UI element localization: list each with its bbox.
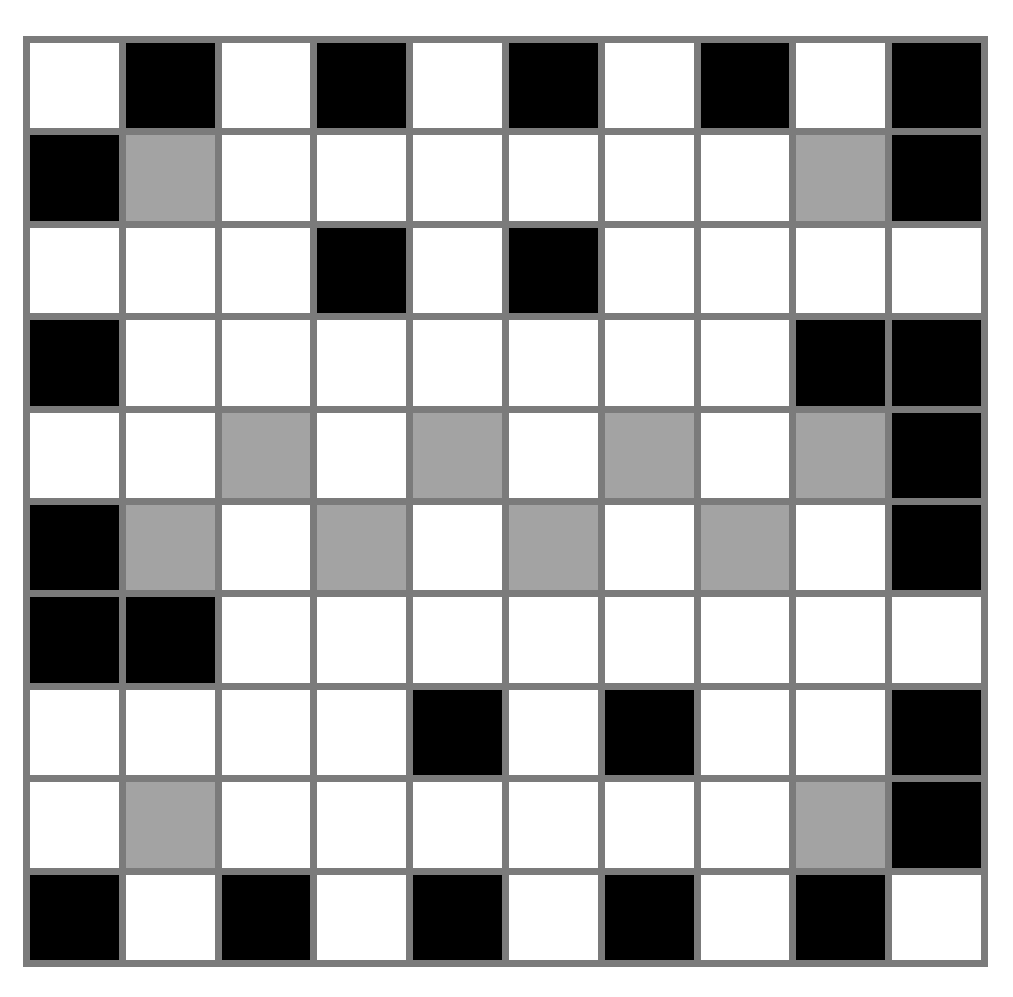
grid-cell-white[interactable]: [30, 228, 119, 313]
grid-cell-white[interactable]: [605, 228, 694, 313]
grid-cell-white[interactable]: [126, 875, 215, 960]
grid-cell-black[interactable]: [796, 875, 885, 960]
grid-cell-white[interactable]: [30, 43, 119, 128]
grid-cell-white[interactable]: [605, 782, 694, 867]
grid-cell-white[interactable]: [892, 875, 981, 960]
grid-cell-white[interactable]: [605, 320, 694, 405]
grid-cell-white[interactable]: [796, 43, 885, 128]
grid-cell-gray[interactable]: [796, 782, 885, 867]
grid-cell-black[interactable]: [317, 228, 406, 313]
grid-cell-white[interactable]: [317, 597, 406, 682]
grid-cell-black[interactable]: [30, 875, 119, 960]
grid-cell-white[interactable]: [222, 43, 311, 128]
grid-cell-white[interactable]: [796, 597, 885, 682]
grid-cell-black[interactable]: [509, 228, 598, 313]
grid-cell-black[interactable]: [413, 690, 502, 775]
grid-cell-gray[interactable]: [509, 505, 598, 590]
grid-cell-white[interactable]: [413, 505, 502, 590]
grid-cell-black[interactable]: [892, 690, 981, 775]
grid-cell-white[interactable]: [222, 135, 311, 220]
grid-cell-white[interactable]: [509, 875, 598, 960]
grid-cell-white[interactable]: [222, 690, 311, 775]
grid-cell-white[interactable]: [796, 228, 885, 313]
grid-cell-black[interactable]: [509, 43, 598, 128]
grid-cell-white[interactable]: [605, 43, 694, 128]
grid-cell-black[interactable]: [413, 875, 502, 960]
grid-cell-black[interactable]: [892, 320, 981, 405]
grid-cell-black[interactable]: [605, 690, 694, 775]
grid-cell-black[interactable]: [30, 320, 119, 405]
grid-cell-black[interactable]: [126, 43, 215, 128]
grid-cell-white[interactable]: [796, 690, 885, 775]
grid-cell-white[interactable]: [222, 320, 311, 405]
grid-cell-white[interactable]: [30, 413, 119, 498]
grid-cell-black[interactable]: [701, 43, 790, 128]
grid-cell-white[interactable]: [413, 782, 502, 867]
grid-cell-white[interactable]: [317, 413, 406, 498]
grid-cell-black[interactable]: [222, 875, 311, 960]
grid-cell-gray[interactable]: [317, 505, 406, 590]
grid-cell-white[interactable]: [413, 597, 502, 682]
grid-cell-white[interactable]: [222, 782, 311, 867]
grid-cell-white[interactable]: [413, 135, 502, 220]
grid-cell-white[interactable]: [605, 135, 694, 220]
grid-cell-black[interactable]: [30, 135, 119, 220]
grid-cell-white[interactable]: [701, 782, 790, 867]
grid-cell-gray[interactable]: [126, 782, 215, 867]
grid-cell-black[interactable]: [892, 413, 981, 498]
grid-cell-white[interactable]: [317, 875, 406, 960]
grid-cell-white[interactable]: [701, 690, 790, 775]
grid-cell-black[interactable]: [605, 875, 694, 960]
grid-cell-white[interactable]: [222, 505, 311, 590]
grid-cell-white[interactable]: [892, 597, 981, 682]
grid-cell-black[interactable]: [30, 505, 119, 590]
grid-cell-white[interactable]: [605, 597, 694, 682]
grid-cell-black[interactable]: [892, 43, 981, 128]
grid-cell-white[interactable]: [317, 135, 406, 220]
grid-cell-black[interactable]: [317, 43, 406, 128]
grid-cell-white[interactable]: [509, 135, 598, 220]
grid-cell-white[interactable]: [317, 782, 406, 867]
grid-cell-white[interactable]: [413, 320, 502, 405]
grid-cell-white[interactable]: [701, 875, 790, 960]
grid-cell-white[interactable]: [509, 782, 598, 867]
grid-cell-white[interactable]: [413, 43, 502, 128]
grid-cell-white[interactable]: [126, 690, 215, 775]
grid-cell-white[interactable]: [126, 228, 215, 313]
grid-cell-white[interactable]: [892, 228, 981, 313]
grid-cell-white[interactable]: [701, 320, 790, 405]
grid-cell-white[interactable]: [796, 505, 885, 590]
grid-cell-gray[interactable]: [605, 413, 694, 498]
grid-cell-gray[interactable]: [222, 413, 311, 498]
grid-cell-white[interactable]: [701, 135, 790, 220]
grid-cell-white[interactable]: [509, 413, 598, 498]
grid-cell-gray[interactable]: [796, 135, 885, 220]
grid-cell-white[interactable]: [605, 505, 694, 590]
grid-cell-gray[interactable]: [413, 413, 502, 498]
grid-cell-white[interactable]: [30, 782, 119, 867]
grid-cell-white[interactable]: [126, 413, 215, 498]
grid-cell-white[interactable]: [413, 228, 502, 313]
grid-cell-black[interactable]: [126, 597, 215, 682]
grid-cell-gray[interactable]: [701, 505, 790, 590]
grid-cell-white[interactable]: [317, 320, 406, 405]
grid-cell-white[interactable]: [509, 690, 598, 775]
grid-cell-white[interactable]: [509, 320, 598, 405]
grid-cell-white[interactable]: [701, 413, 790, 498]
grid-cell-white[interactable]: [222, 228, 311, 313]
grid-cell-white[interactable]: [222, 597, 311, 682]
grid-cell-black[interactable]: [30, 597, 119, 682]
grid-cell-black[interactable]: [796, 320, 885, 405]
grid-cell-gray[interactable]: [796, 413, 885, 498]
grid-cell-white[interactable]: [509, 597, 598, 682]
grid-cell-black[interactable]: [892, 505, 981, 590]
grid-cell-white[interactable]: [701, 597, 790, 682]
grid-cell-white[interactable]: [317, 690, 406, 775]
grid-cell-white[interactable]: [30, 690, 119, 775]
grid-cell-black[interactable]: [892, 782, 981, 867]
grid-cell-white[interactable]: [126, 320, 215, 405]
grid-cell-gray[interactable]: [126, 505, 215, 590]
grid-cell-white[interactable]: [701, 228, 790, 313]
grid-cell-gray[interactable]: [126, 135, 215, 220]
grid-cell-black[interactable]: [892, 135, 981, 220]
